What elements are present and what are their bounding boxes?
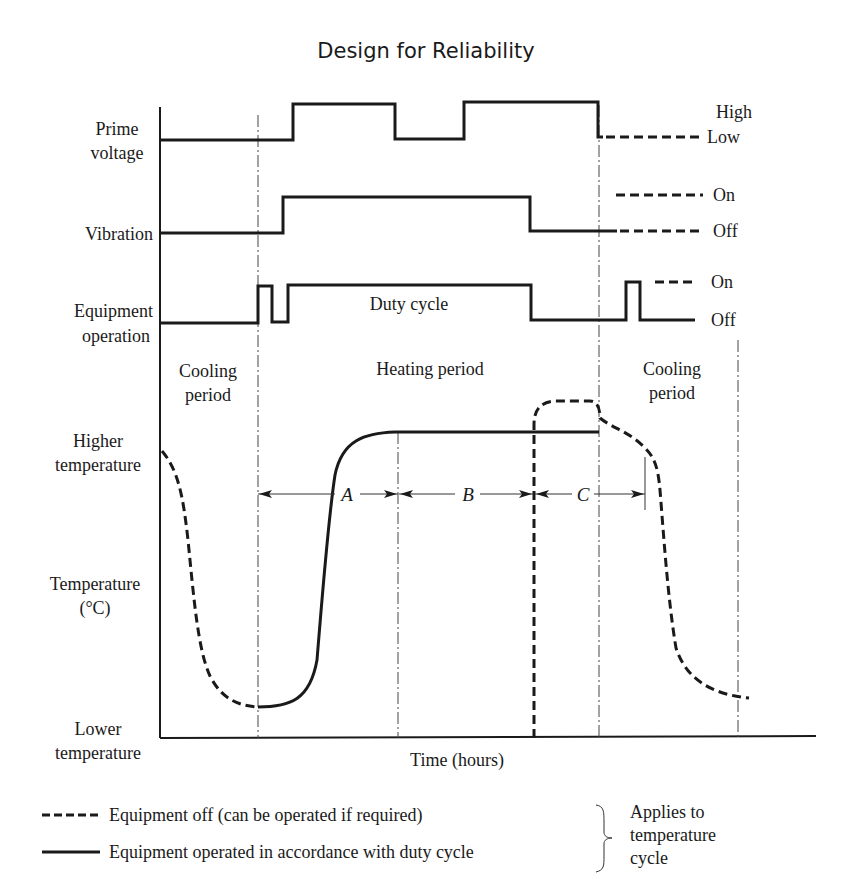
level-low: Low [707,127,740,147]
legend-note: temperature [630,825,716,845]
interval-markers: A B C [258,457,645,510]
level-high: High [716,102,752,122]
temperature-axis-title: (°C) [79,598,110,619]
interval-c-label: C [577,484,590,505]
vibration-trace [161,197,617,233]
vibration-signal: Vibration On Off [85,185,738,244]
legend: Equipment off (can be operated if requir… [42,802,716,872]
lower-temperature-label: temperature [55,743,141,763]
level-on: On [711,272,733,292]
level-off: Off [711,310,736,330]
lower-temperature-label: Lower [75,719,122,739]
heating-curve [258,432,599,707]
brace-icon [596,805,612,872]
heating-period-label: Heating period [376,359,483,379]
legend-solid-label: Equipment operated in accordance with du… [109,842,474,862]
diagram-title: Design for Reliability [317,39,534,63]
cooling-period-right: period [649,383,695,403]
duty-cycle-label: Duty cycle [370,294,448,314]
level-on: On [713,185,735,205]
x-axis-label: Time (hours) [410,750,504,771]
legend-dashed-label: Equipment off (can be operated if requir… [109,805,423,826]
prime-voltage-trace [161,102,603,140]
prime-voltage-label: Prime [96,119,139,139]
vibration-label: Vibration [85,224,153,244]
cooling-curve-left [162,451,258,707]
temperature-axis-title: Temperature [50,574,141,594]
equipment-operation-signal: Equipment operation Duty cycle On Off [74,272,736,346]
prime-voltage-signal: Prime voltage High Low [91,102,752,163]
prime-voltage-label: voltage [91,143,144,163]
higher-temperature-label: temperature [55,455,141,475]
level-off: Off [713,221,738,241]
reliability-diagram: Design for Reliability Prime voltage Hig… [0,0,853,890]
equipment-operation-label: Equipment [74,301,153,321]
interval-b-label: B [462,484,474,505]
cooling-period-right: Cooling [643,359,701,379]
cooling-curve-right [534,401,749,738]
legend-note: cycle [630,848,668,868]
cooling-period-left: period [185,385,231,405]
equipment-operation-label: operation [82,326,150,346]
cooling-period-left: Cooling [179,361,237,381]
legend-note: Applies to [630,802,705,822]
temperature-cycle [162,401,749,738]
higher-temperature-label: Higher [73,431,123,451]
interval-a-label: A [339,484,353,505]
